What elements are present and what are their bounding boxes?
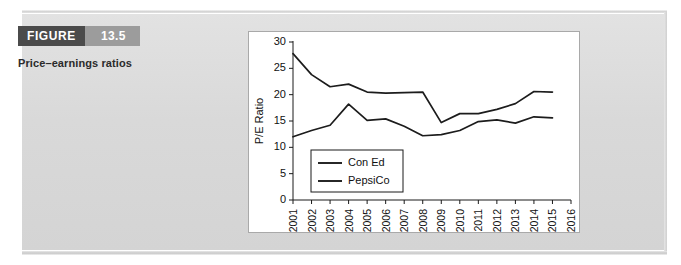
figure-label-word: FIGURE <box>18 26 85 46</box>
x-tick-label: 2001 <box>287 209 299 232</box>
bottom-rule <box>22 251 667 255</box>
x-tick-label: 2015 <box>546 209 558 232</box>
x-tick-label: 2006 <box>380 209 392 232</box>
x-tick-label: 2002 <box>306 209 318 232</box>
figure-caption: Price–earnings ratios <box>18 57 132 69</box>
x-tick-label: 2011 <box>472 209 484 232</box>
pe-ratio-line-chart: 051015202530P/E Ratio 200120022003200420… <box>249 32 579 232</box>
x-tick-label: 2008 <box>417 209 429 232</box>
x-tick-label: 2013 <box>509 209 521 232</box>
y-tick-label: 30 <box>274 35 286 47</box>
x-tick-label: 2012 <box>491 209 503 232</box>
x-tick-label: 2016 <box>565 209 577 232</box>
y-tick-label: 25 <box>274 61 286 73</box>
x-tick-label: 2003 <box>324 209 336 232</box>
y-tick-label: 10 <box>274 140 286 152</box>
chart-frame: 051015202530P/E Ratio 200120022003200420… <box>248 31 580 233</box>
x-axis: 2001200220032004200520062007200820092010… <box>287 200 577 232</box>
figure-page: FIGURE 13.5 Price–earnings ratios 051015… <box>0 0 681 265</box>
x-tick-label: 2010 <box>454 209 466 232</box>
y-tick-label: 0 <box>280 193 286 205</box>
x-tick-label: 2004 <box>343 209 355 232</box>
series-line-con-ed <box>293 54 552 123</box>
y-axis-title: P/E Ratio <box>253 98 265 144</box>
x-tick-label: 2014 <box>528 209 540 232</box>
series-lines <box>293 54 552 137</box>
right-edge-rule <box>664 12 667 252</box>
y-tick-label: 15 <box>274 114 286 126</box>
figure-badge: FIGURE 13.5 <box>18 26 140 46</box>
series-line-pepsico <box>293 104 552 137</box>
x-tick-label: 2009 <box>435 209 447 232</box>
x-tick-label: 2007 <box>398 209 410 232</box>
figure-label-number: 13.5 <box>85 26 140 46</box>
y-axis: 051015202530P/E Ratio <box>253 35 293 205</box>
legend-label: Con Ed <box>348 156 385 168</box>
chart-legend: Con EdPepsiCo <box>311 150 403 192</box>
legend-label: PepsiCo <box>348 174 390 186</box>
top-rule <box>22 10 667 13</box>
y-tick-label: 5 <box>280 167 286 179</box>
y-tick-label: 20 <box>274 88 286 100</box>
x-tick-label: 2005 <box>361 209 373 232</box>
